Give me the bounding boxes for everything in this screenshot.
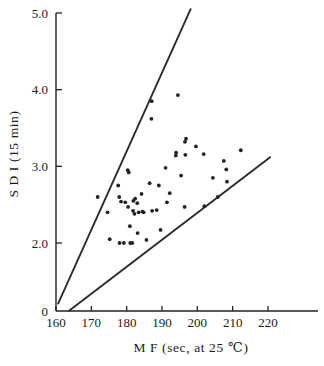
x-tick-label: 220 — [258, 315, 278, 330]
data-point — [126, 205, 130, 209]
data-point — [165, 200, 169, 204]
data-point — [164, 166, 168, 170]
data-point — [150, 99, 154, 103]
data-point — [127, 171, 131, 175]
scatter-plot-canvas: 02.03.04.05.0160170180190200210220M F (s… — [0, 0, 324, 366]
upper-bound-line — [58, 9, 191, 303]
data-point — [96, 195, 100, 199]
data-point — [183, 153, 187, 157]
data-point — [225, 180, 229, 184]
data-point — [116, 184, 120, 188]
data-point — [150, 209, 154, 213]
data-point — [203, 204, 207, 208]
data-point — [155, 208, 159, 212]
data-point — [176, 93, 180, 97]
data-point — [133, 212, 137, 216]
data-point — [159, 228, 163, 232]
x-tick-label: 200 — [188, 315, 208, 330]
data-point — [184, 137, 188, 141]
data-point — [216, 195, 220, 199]
scatter-figure: 02.03.04.05.0160170180190200210220M F (s… — [0, 0, 324, 366]
x-tick-label: 210 — [223, 315, 243, 330]
data-point — [118, 241, 122, 245]
data-point — [108, 237, 112, 241]
data-point — [137, 210, 141, 214]
data-point — [148, 181, 152, 185]
x-tick-label: 160 — [46, 315, 66, 330]
x-tick-label: 190 — [152, 315, 172, 330]
data-point — [106, 210, 110, 214]
data-point — [179, 174, 183, 178]
x-axis-title: M F (sec, at 25 ℃) — [133, 340, 248, 355]
data-point — [168, 191, 172, 195]
data-point — [211, 176, 215, 180]
data-point — [140, 192, 144, 196]
data-point — [128, 224, 132, 228]
y-tick-label: 2.0 — [32, 236, 48, 251]
data-point — [119, 200, 123, 204]
data-point — [202, 152, 206, 156]
data-point — [224, 168, 228, 172]
data-point — [130, 241, 134, 245]
data-point — [133, 197, 137, 201]
x-tick-label: 170 — [82, 315, 102, 330]
data-point — [135, 201, 139, 205]
data-point — [157, 184, 161, 188]
y-tick-label: 3.0 — [32, 159, 48, 174]
data-point — [150, 117, 154, 121]
lower-bound-line — [69, 157, 270, 311]
data-point — [136, 231, 140, 235]
data-point — [123, 200, 127, 204]
data-point — [222, 159, 226, 163]
data-point — [194, 145, 198, 149]
y-tick-label: 4.0 — [32, 82, 48, 97]
data-point — [142, 210, 146, 214]
x-tick-label: 180 — [117, 315, 137, 330]
data-point — [145, 238, 149, 242]
y-axis-title: S D I (15 min) — [6, 110, 21, 197]
data-point — [174, 151, 178, 155]
data-point — [117, 195, 121, 199]
y-tick-label: 5.0 — [32, 6, 48, 21]
data-point — [239, 148, 243, 152]
data-point — [122, 241, 126, 245]
data-point — [183, 205, 187, 209]
